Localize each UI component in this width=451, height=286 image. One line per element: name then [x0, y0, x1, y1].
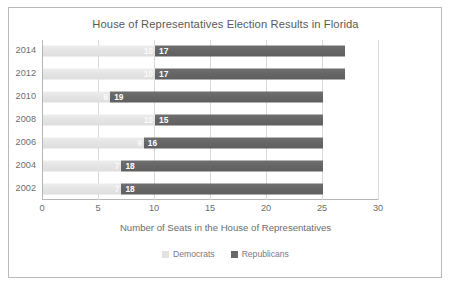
bar-value-label-republicans: 16 [148, 137, 157, 148]
stacked-bar[interactable]: 1017 [43, 69, 345, 80]
y-axis-label-2006: 2006 [16, 138, 36, 147]
x-axis-tick-labels: 051015202530 [42, 203, 378, 217]
bar-value-label-democrats: 6 [104, 92, 109, 103]
bar-segment-republicans[interactable]: 17 [155, 46, 345, 57]
bar-value-label-republicans: 17 [159, 69, 168, 80]
x-axis-title: Number of Seats in the House of Represen… [0, 222, 451, 233]
y-axis-label-2014: 2014 [16, 46, 36, 55]
y-axis-label-2012: 2012 [16, 69, 36, 78]
stacked-bar[interactable]: 1017 [43, 46, 345, 57]
bar-segment-republicans[interactable]: 19 [110, 92, 323, 103]
bar-value-label-democrats: 10 [144, 46, 153, 57]
bar-segment-democrats[interactable]: 10 [43, 46, 155, 57]
chart-title: House of Representatives Election Result… [0, 18, 451, 30]
y-axis-label-2004: 2004 [16, 161, 36, 170]
stacked-bar[interactable]: 916 [43, 137, 323, 148]
stacked-bar[interactable]: 718 [43, 160, 323, 171]
bar-value-label-republicans: 18 [125, 183, 134, 194]
bar-value-label-republicans: 19 [114, 92, 123, 103]
legend-swatch-icon [162, 251, 169, 258]
bar-value-label-republicans: 15 [159, 114, 168, 125]
bar-segment-democrats[interactable]: 7 [43, 160, 121, 171]
bar-segment-republicans[interactable]: 17 [155, 69, 345, 80]
legend-item-democrats[interactable]: Democrats [162, 249, 215, 259]
y-axis-label-2010: 2010 [16, 92, 36, 101]
bar-value-label-democrats: 10 [144, 69, 153, 80]
x-axis-tick-25: 25 [317, 203, 327, 213]
bar-segment-republicans[interactable]: 18 [121, 183, 323, 194]
bar-value-label-democrats: 9 [137, 137, 142, 148]
x-axis-tick-20: 20 [261, 203, 271, 213]
bar-segment-republicans[interactable]: 18 [121, 160, 323, 171]
y-axis-label-2002: 2002 [16, 184, 36, 193]
bar-segment-democrats[interactable]: 7 [43, 183, 121, 194]
stacked-bar[interactable]: 1015 [43, 114, 323, 125]
bar-segment-democrats[interactable]: 10 [43, 69, 155, 80]
bar-segment-republicans[interactable]: 15 [155, 114, 323, 125]
bar-value-label-democrats: 10 [144, 114, 153, 125]
chart-legend: DemocratsRepublicans [0, 249, 451, 259]
bar-value-label-republicans: 17 [159, 46, 168, 57]
bar-segment-democrats[interactable]: 9 [43, 137, 144, 148]
x-axis-tick-0: 0 [39, 203, 44, 213]
bar-value-label-democrats: 7 [115, 183, 120, 194]
bar-segment-democrats[interactable]: 10 [43, 114, 155, 125]
chart-container: House of Representatives Election Result… [0, 0, 451, 286]
legend-swatch-icon [231, 251, 238, 258]
legend-item-republicans[interactable]: Republicans [231, 249, 289, 259]
x-axis-tick-15: 15 [205, 203, 215, 213]
x-gridline [378, 40, 379, 200]
bar-segment-republicans[interactable]: 16 [144, 137, 323, 148]
x-axis-tick-10: 10 [149, 203, 159, 213]
stacked-bar[interactable]: 718 [43, 183, 323, 194]
bar-value-label-democrats: 7 [115, 160, 120, 171]
legend-label: Democrats [173, 249, 215, 259]
bar-segment-democrats[interactable]: 6 [43, 92, 110, 103]
y-axis-label-2008: 2008 [16, 115, 36, 124]
y-axis-category-labels: 2014201220102008200620042002 [0, 40, 36, 200]
stacked-bar[interactable]: 619 [43, 92, 323, 103]
bar-value-label-republicans: 18 [125, 160, 134, 171]
x-axis-tick-30: 30 [373, 203, 383, 213]
x-axis-tick-5: 5 [95, 203, 100, 213]
legend-label: Republicans [242, 249, 289, 259]
plot-area: 101710176191015916718718 [42, 40, 378, 200]
